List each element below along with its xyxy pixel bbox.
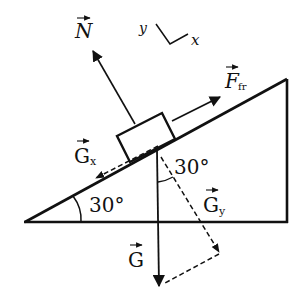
label-gy: G y (203, 190, 226, 218)
svg-text:y: y (218, 205, 226, 218)
axis-label-y: y (138, 20, 148, 36)
svg-text:x: x (90, 155, 97, 168)
incline-angle-arc (73, 196, 81, 222)
friction-force-arrow (172, 97, 220, 121)
svg-text:G: G (203, 193, 219, 217)
gravity-arrow (157, 151, 159, 286)
label-normal: N (74, 18, 94, 43)
incline-surface (25, 79, 287, 222)
svg-text:G: G (128, 248, 144, 272)
svg-text:fr: fr (238, 81, 247, 92)
axis-label-x: x (191, 31, 200, 49)
axis-indicator (156, 24, 188, 44)
force-angle-arc (158, 177, 173, 182)
label-force-angle: 30° (174, 155, 209, 179)
inclined-plane (24, 79, 288, 223)
label-gx: G x (74, 141, 97, 168)
block (117, 113, 175, 162)
normal-force-arrow (93, 51, 135, 124)
label-incline-angle: 30° (89, 193, 124, 217)
svg-text:N: N (74, 19, 94, 43)
component-connector (165, 254, 219, 283)
incline-force-diagram: N y x F fr G x G y G 30° 30° (0, 0, 307, 305)
label-friction: F fr (224, 67, 247, 93)
svg-text:G: G (74, 144, 90, 168)
label-gravity: G (128, 245, 144, 272)
